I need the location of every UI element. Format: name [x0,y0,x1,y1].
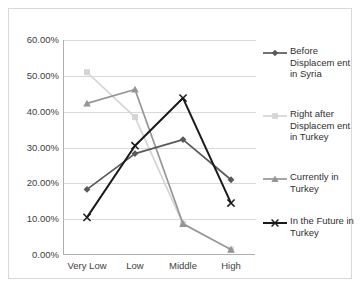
data-point-marker [131,142,138,149]
series-line [87,140,231,190]
y-axis: 0.00%10.00%20.00%30.00%40.00%50.00%60.00… [9,40,59,255]
chart-container: 0.00%10.00%20.00%30.00%40.00%50.00%60.00… [8,8,352,279]
y-axis-tick-label: 50.00% [11,71,59,80]
y-axis-tick-label: 30.00% [11,143,59,152]
y-axis-tick-label: 0.00% [11,250,59,259]
y-axis-tick-label: 60.00% [11,35,59,44]
legend-label: Before Displacem ent in Syria [290,45,357,80]
y-axis-tick-label: 10.00% [11,214,59,223]
data-point-marker [272,50,278,56]
series-layer [63,40,255,255]
legend-marker-icon [262,218,288,228]
data-point-marker [84,69,90,75]
legend-label: Right after Displacem ent in Turkey [290,108,357,143]
legend-label: In the Future in Turkey [290,215,357,238]
legend-marker-icon [262,174,288,184]
data-point-marker [179,94,186,101]
data-point-marker [272,113,278,119]
y-axis-tick-label: 20.00% [11,178,59,187]
legend-label: Currently in Turkey [290,171,357,194]
data-point-marker [227,199,234,206]
data-point-marker [131,86,139,93]
x-axis-tick-label: High [201,260,261,271]
x-axis: Very LowLowMiddleHigh [63,259,255,275]
data-point-marker [83,214,90,221]
legend-marker-icon [262,111,288,121]
chart-legend: Before Displacem ent in SyriaRight after… [262,45,357,255]
legend-marker-icon [262,48,288,58]
data-point-marker [132,114,138,120]
y-axis-tick-label: 40.00% [11,107,59,116]
